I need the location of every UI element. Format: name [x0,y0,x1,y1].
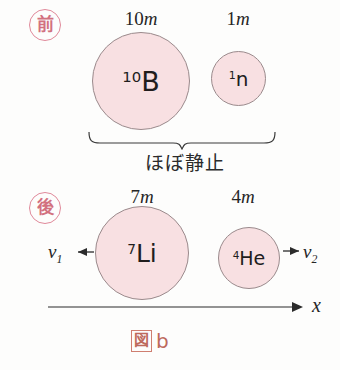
mass-unit-neutron: m [236,8,250,29]
mass-value-boron: 10 [125,8,144,29]
isotope-superscript-boron: 10 [122,68,141,86]
element-symbol-helium: He [239,247,265,269]
velocity-1-subscript: 1 [56,253,62,266]
velocity-2-arrow-head [290,247,299,255]
x-axis-arrow-head [292,302,303,312]
mass-unit-lithium: m [140,186,154,207]
particle-helium-4: 4He [218,227,280,289]
velocity-1-label: v1 [48,241,62,267]
particle-boron-10: 10B [92,32,190,130]
figure-caption-letter: b [156,331,169,351]
element-symbol-neutron: n [236,67,249,91]
mass-unit-boron: m [144,8,158,29]
mass-unit-helium: m [241,186,255,207]
x-axis-label: x [312,294,321,317]
stamp-before-label: 前 [29,9,61,41]
particle-helium-4-label: 4He [233,249,266,268]
mass-label-lithium: 7m [102,186,182,208]
mass-value-lithium: 7 [130,186,140,207]
particle-neutron: 1n [211,51,266,106]
particle-lithium-7: 7Li [95,206,189,300]
figure-caption: 図 b [131,330,211,352]
mass-label-neutron: 1m [205,8,271,30]
velocity-2-subscript: 2 [311,253,317,266]
mass-label-helium: 4m [210,186,276,208]
particle-neutron-label: 1n [229,69,249,89]
figure-caption-boxed-kanji: 図 [131,330,152,352]
mass-value-neutron: 1 [226,8,236,29]
velocity-2-label: v2 [303,241,317,267]
grouping-brace [89,132,275,149]
mass-value-helium: 4 [231,186,241,207]
rest-state-caption: ほぼ静止 [103,148,267,175]
velocity-1-arrow-head [78,248,87,256]
particle-lithium-7-label: 7Li [127,241,157,266]
isotope-superscript-neutron: 1 [229,69,236,82]
isotope-superscript-helium: 4 [233,249,240,261]
isotope-superscript-lithium: 7 [127,241,136,257]
element-symbol-lithium: Li [136,239,157,268]
particle-boron-10-label: 10B [122,68,159,95]
stamp-after-label: 後 [29,192,61,224]
mass-label-boron: 10m [101,8,181,30]
element-symbol-boron: B [141,66,160,97]
